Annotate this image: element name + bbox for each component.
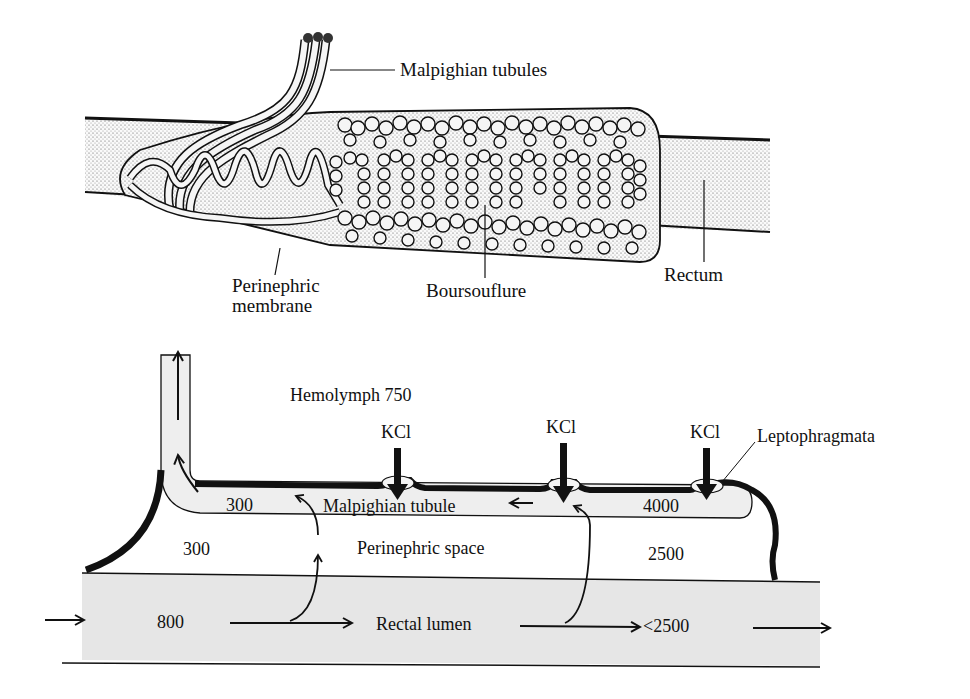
label-boursouflure: Boursouflure	[426, 281, 526, 300]
malpighian-tubule-shape	[161, 355, 752, 518]
label-perinephric-space: Perinephric space	[357, 539, 484, 557]
value-lumen-out: <2500	[643, 617, 689, 635]
value-lumen-in: 800	[157, 613, 184, 631]
label-leptophragmata: Leptophragmata	[757, 427, 875, 445]
label-malpighian-tubule: Malpighian tubule	[323, 497, 455, 515]
value-tubule-right: 4000	[643, 497, 679, 515]
label-rectum: Rectum	[664, 265, 723, 284]
label-perinephric-membrane-2: membrane	[232, 296, 312, 315]
label-kcl-2: KCl	[546, 418, 576, 436]
label-perinephric-membrane-1: Perinephric	[232, 276, 320, 295]
label-kcl-3: KCl	[690, 423, 720, 441]
diagram-canvas	[0, 0, 970, 699]
perinephric-membrane-left	[86, 470, 161, 570]
value-perinephric-left: 300	[183, 540, 210, 558]
label-kcl-1: KCl	[381, 423, 411, 441]
leader-leptophragmata	[722, 442, 755, 482]
label-rectal-lumen: Rectal lumen	[376, 615, 471, 633]
label-malpighian-tubules: Malpighian tubules	[400, 60, 547, 79]
label-hemolymph: Hemolymph 750	[290, 386, 412, 404]
value-perinephric-right: 2500	[648, 545, 684, 563]
value-tubule-left: 300	[226, 496, 253, 514]
